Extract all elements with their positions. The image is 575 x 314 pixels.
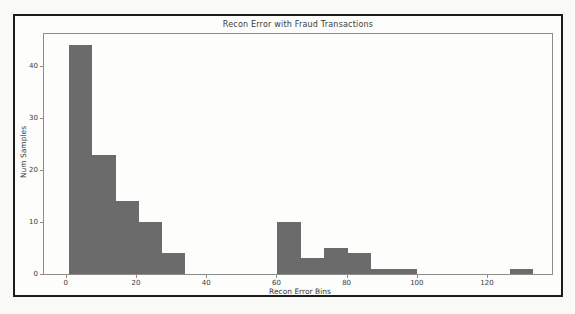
y-tick-mark xyxy=(40,66,43,67)
x-tick-mark xyxy=(206,275,207,278)
x-tick-mark xyxy=(347,275,348,278)
x-tick-label: 40 xyxy=(202,279,211,287)
x-tick-label: 0 xyxy=(64,279,68,287)
histogram-bar xyxy=(115,201,138,274)
histogram-bar xyxy=(324,248,347,274)
y-tick-mark xyxy=(40,222,43,223)
x-tick-mark xyxy=(276,275,277,278)
x-tick-mark xyxy=(66,275,67,278)
histogram-bar xyxy=(301,258,324,274)
x-tick-mark xyxy=(136,275,137,278)
x-tick-label: 100 xyxy=(410,279,423,287)
histogram-bar xyxy=(510,269,533,274)
y-tick-label: 30 xyxy=(10,114,38,122)
histogram-bar xyxy=(162,253,185,274)
y-tick-label: 40 xyxy=(10,62,38,70)
y-tick-mark xyxy=(40,274,43,275)
plot-area xyxy=(43,33,553,275)
x-tick-label: 120 xyxy=(480,279,493,287)
histogram-bar xyxy=(69,45,92,274)
histogram-bar xyxy=(92,155,115,274)
y-tick-label: 20 xyxy=(10,166,38,174)
x-tick-mark xyxy=(417,275,418,278)
x-tick-mark xyxy=(487,275,488,278)
histogram-bar xyxy=(138,222,161,274)
x-axis-label: Recon Error Bins xyxy=(269,287,331,296)
y-tick-label: 0 xyxy=(10,270,38,278)
x-tick-label: 80 xyxy=(342,279,351,287)
y-tick-label: 10 xyxy=(10,218,38,226)
x-tick-label: 60 xyxy=(272,279,281,287)
figure-screenshot: Recon Error with Fraud Transactions Num … xyxy=(0,0,575,314)
histogram-bar xyxy=(371,269,394,274)
histogram-bar xyxy=(394,269,417,274)
chart-title: Recon Error with Fraud Transactions xyxy=(43,20,553,29)
y-tick-mark xyxy=(40,118,43,119)
histogram-bar xyxy=(277,222,301,274)
y-tick-mark xyxy=(40,170,43,171)
histogram-bar xyxy=(347,253,370,274)
x-tick-label: 20 xyxy=(132,279,141,287)
